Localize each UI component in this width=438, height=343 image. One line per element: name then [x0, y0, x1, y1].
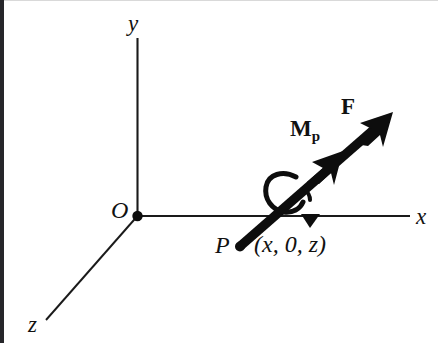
origin-dot: [132, 211, 142, 221]
axis-lines: [46, 38, 410, 320]
origin-label: O: [111, 198, 128, 222]
page-left-edge-border: [0, 0, 4, 343]
moment-vector-double-arrowhead: [307, 151, 343, 185]
point-p-label: P: [215, 233, 230, 257]
z-axis-line: [46, 217, 137, 321]
force-vector-arrowhead: [355, 112, 393, 147]
x-axis-label: x: [416, 205, 426, 228]
force-vector-label: F: [341, 95, 355, 118]
moment-vector-label-subscript: p: [312, 128, 320, 144]
point-p-coordinates-label: (x, 0, z): [254, 232, 326, 256]
moment-vector-label: Mp: [290, 117, 320, 140]
y-axis-label: y: [128, 12, 138, 35]
vector-diagram-graphics: [0, 0, 438, 343]
z-axis-label: z: [28, 313, 37, 336]
figure-canvas: y x z O P (x, 0, z) F Mp: [0, 0, 438, 343]
curved-rotation-arrowhead: [301, 214, 320, 228]
moment-vector-label-base: M: [290, 116, 312, 141]
